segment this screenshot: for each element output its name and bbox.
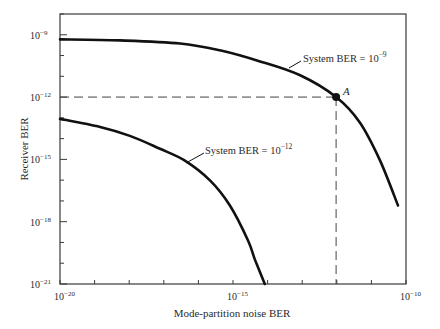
annotation-system-ber-1e-9: System BER = 10−9: [303, 50, 387, 64]
y-tick-label: 10−12: [30, 91, 51, 103]
chart: 10−2010−1510−10 10−910−1210−1510−1810−21…: [0, 0, 440, 329]
y-axis-tick-labels: 10−910−1210−1510−1810−21: [30, 29, 51, 290]
y-axis-label: Receiver BER: [18, 117, 30, 181]
y-tick-label: 10−15: [30, 153, 51, 165]
annotation-arrow-1e-12: [186, 153, 204, 163]
curve-system-ber-1e-9: [60, 39, 398, 205]
y-tick-label: 10−21: [30, 278, 51, 290]
x-axis-tick-labels: 10−2010−1510−10: [54, 290, 421, 302]
x-tick-label: 10−15: [227, 290, 248, 302]
y-axis-ticks: [60, 14, 67, 284]
annotation-arrow-1e-9: [289, 61, 301, 68]
point-a-marker: [332, 93, 340, 101]
annotation-system-ber-1e-12: System BER = 10−12: [205, 142, 293, 156]
curve-system-ber-1e-12: [60, 119, 265, 284]
x-axis-label: Mode-partition noise BER: [174, 307, 291, 319]
y-tick-label: 10−9: [30, 29, 48, 41]
point-a-label: A: [342, 85, 350, 97]
x-tick-label: 10−10: [400, 290, 421, 302]
x-tick-label: 10−20: [54, 290, 75, 302]
y-tick-label: 10−18: [30, 216, 51, 228]
